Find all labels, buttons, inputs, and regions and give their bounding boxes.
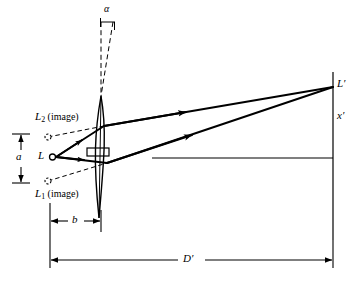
refracted-ray-lower-arrow <box>107 135 192 163</box>
diagram-canvas <box>0 0 357 283</box>
dimension-d-label: D′ <box>183 253 193 264</box>
source-label: L <box>38 150 44 161</box>
virtual-image-rays <box>48 126 107 181</box>
alpha-label: α <box>104 4 109 14</box>
lens-axis-dashed-line <box>101 22 113 96</box>
screen-height-label: x′ <box>337 110 344 121</box>
virtual-ray-lower-dashed <box>48 163 107 181</box>
virtual-image-lower-label: L1 (image) <box>35 188 79 201</box>
virtual-image-upper-note-text: (image) <box>48 111 79 122</box>
alpha-angle-construction <box>100 18 115 96</box>
tilted-lens <box>95 96 104 218</box>
incident-ray-upper-arrow <box>56 140 82 157</box>
virtual-image-upper-marker <box>45 134 51 140</box>
refracted-ray-upper-arrow <box>104 112 186 126</box>
dimension-a-label: a <box>16 151 22 162</box>
lens-aperture-marker <box>87 148 109 156</box>
virtual-image-lower-marker <box>45 178 51 184</box>
dimension-b-label: b <box>72 214 78 225</box>
virtual-image-lower-note-text: (image) <box>48 188 79 199</box>
image-point-label: L′ <box>337 78 346 89</box>
optics-ray-diagram-figure: α L2 (image) L1 (image) L L′ x′ a b D′ <box>0 0 357 283</box>
virtual-image-upper-label: L2 (image) <box>35 111 79 124</box>
source-point-marker <box>50 154 56 160</box>
